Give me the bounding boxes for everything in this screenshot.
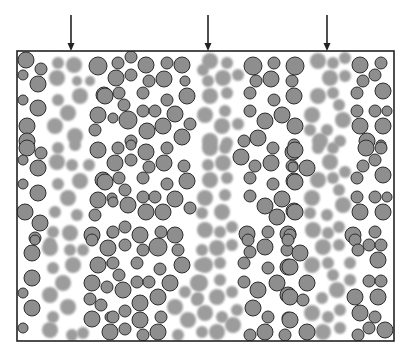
outlined-particle — [287, 174, 303, 190]
faded-particle — [52, 57, 64, 69]
faded-particle — [47, 118, 63, 134]
outlined-particle — [363, 239, 375, 251]
outlined-particle — [155, 118, 171, 134]
outlined-particle — [375, 167, 391, 183]
outlined-particle — [30, 76, 46, 92]
outlined-particle — [351, 87, 363, 99]
outlined-particle — [161, 142, 173, 154]
outlined-particle — [120, 197, 136, 213]
faded-particle — [52, 142, 64, 154]
outlined-particle — [288, 162, 298, 172]
faded-particle — [72, 88, 88, 104]
faded-particle — [329, 282, 345, 298]
outlined-particle — [292, 245, 308, 261]
faded-particle — [42, 287, 58, 303]
faded-particle — [232, 118, 244, 130]
faded-particle — [304, 107, 320, 123]
outlined-particle — [369, 191, 381, 203]
outlined-particle — [18, 70, 28, 80]
faded-particle — [322, 154, 338, 170]
outlined-particle — [156, 71, 172, 87]
faded-particle — [179, 286, 191, 298]
outlined-particle — [369, 226, 381, 238]
faded-particle — [304, 305, 320, 321]
outlined-particle — [101, 281, 113, 293]
faded-particle — [197, 257, 213, 273]
outlined-particle — [263, 155, 279, 171]
outlined-particle — [263, 71, 279, 87]
outlined-particle — [97, 88, 113, 104]
outlined-particle — [375, 83, 391, 99]
outlined-particle — [108, 197, 118, 207]
outlined-particle — [274, 107, 290, 123]
outlined-particle — [18, 288, 28, 298]
outlined-particle — [107, 311, 119, 323]
faded-particle — [226, 286, 238, 298]
outlined-particle — [89, 57, 107, 75]
faded-particle — [339, 52, 351, 64]
outlined-particle — [282, 234, 294, 246]
outlined-particle — [137, 87, 149, 99]
outlined-particle — [287, 204, 303, 220]
outlined-particle — [112, 142, 124, 154]
outlined-particle — [257, 113, 273, 129]
faded-particle — [321, 209, 333, 221]
outlined-particle — [115, 282, 131, 298]
outlined-particle — [113, 87, 125, 99]
outlined-particle — [244, 57, 262, 75]
outlined-particle — [267, 142, 279, 154]
outlined-particle — [352, 57, 368, 73]
faded-particle — [66, 57, 82, 73]
faded-particle — [335, 112, 351, 128]
outlined-particle — [268, 57, 280, 69]
particle-field — [17, 51, 393, 341]
faded-particle — [49, 70, 65, 86]
outlined-particle — [184, 202, 196, 214]
outlined-particle — [299, 324, 315, 340]
faded-particle — [304, 257, 320, 273]
outlined-particle — [375, 118, 391, 134]
outlined-particle — [18, 179, 28, 189]
outlined-particle — [84, 275, 100, 291]
faded-particle — [196, 207, 208, 219]
outlined-particle — [382, 106, 392, 116]
outlined-particle — [125, 154, 137, 166]
faded-particle — [42, 322, 58, 338]
faded-particle — [232, 69, 244, 81]
outlined-particle — [347, 289, 363, 305]
outlined-particle — [162, 275, 178, 291]
outlined-particle — [24, 245, 40, 261]
outlined-particle — [131, 257, 143, 269]
outlined-particle — [107, 226, 119, 238]
faded-particle — [214, 257, 226, 269]
outlined-particle — [262, 262, 274, 274]
outlined-particle — [357, 160, 369, 172]
outlined-particle — [279, 329, 291, 341]
outlined-particle — [155, 311, 167, 323]
outlined-particle — [119, 305, 131, 317]
outlined-particle — [139, 123, 155, 139]
outlined-particle — [30, 185, 46, 201]
outlined-particle — [107, 155, 123, 171]
faded-particle — [49, 206, 61, 218]
faded-particle — [197, 64, 209, 76]
faded-particle — [333, 184, 345, 196]
faded-particle — [304, 190, 320, 206]
faded-particle — [215, 155, 231, 171]
outlined-particle — [132, 295, 148, 311]
outlined-particle — [282, 259, 298, 275]
outlined-particle — [299, 160, 315, 176]
outlined-particle — [178, 160, 190, 172]
faded-particle — [202, 88, 218, 104]
outlined-particle — [113, 172, 125, 184]
faded-particle — [304, 207, 316, 219]
faded-particle — [72, 173, 88, 189]
faded-particle — [316, 292, 328, 304]
outlined-particle — [351, 172, 363, 184]
faded-particle — [214, 204, 230, 220]
faded-particle — [226, 221, 238, 233]
outlined-particle — [119, 184, 131, 196]
faded-particle — [49, 154, 65, 170]
faded-particle — [197, 190, 213, 206]
outlined-particle — [137, 105, 149, 117]
